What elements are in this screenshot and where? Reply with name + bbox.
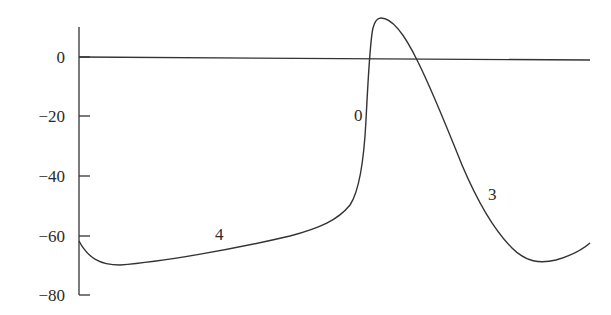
y-tick-label-0: 0 — [57, 48, 66, 67]
y-tick-label-minus80: −80 — [38, 286, 65, 305]
phase-0-label: 0 — [354, 106, 363, 125]
phase-4-label: 4 — [215, 225, 224, 244]
action-potential-chart: 0 −20 −40 −60 −80 0 3 4 — [0, 0, 611, 315]
action-potential-curve — [79, 18, 590, 265]
y-tick-label-minus60: −60 — [38, 227, 65, 246]
zero-line — [79, 57, 590, 60]
phase-3-label: 3 — [488, 185, 497, 204]
y-tick-label-minus40: −40 — [38, 167, 65, 186]
y-tick-label-minus20: −20 — [38, 107, 65, 126]
